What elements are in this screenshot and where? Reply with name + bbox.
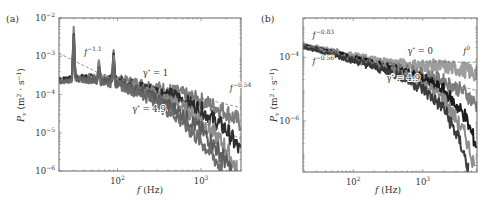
y-tick-label: 10−6 xyxy=(279,114,299,126)
x-tick-label: 103 xyxy=(415,175,430,187)
x-tick-label: 103 xyxy=(194,174,209,186)
fit-line xyxy=(59,53,99,73)
y-tick-label: 10−4 xyxy=(279,50,299,62)
annotation-label: f0 xyxy=(462,44,470,56)
annotation-label: γ* = 1 xyxy=(143,68,169,78)
panel-a-ylabel: Pv (m2 · s−1) xyxy=(15,68,27,123)
panel-b-ylabel: Pv (m2 · s−1) xyxy=(268,68,280,123)
y-tick-label: 10−6 xyxy=(35,164,55,176)
x-tick-label: 102 xyxy=(110,174,125,186)
panel-a-xlabel: f (Hz) xyxy=(136,185,163,195)
x-tick-label: 102 xyxy=(346,175,361,187)
annotation-label: f−0.54 xyxy=(229,81,252,93)
annotation-label: f−1.1 xyxy=(83,45,102,57)
figure: (a) 10−210−310−410−510−6 102103 f−1.1γ* … xyxy=(0,0,495,208)
panel-b: (b) 10−410−6 102103 f−0.83f−0.56γ* = 0f0… xyxy=(261,13,477,195)
annotation-label: f−0.56 xyxy=(311,54,334,66)
panel-a-label: (a) xyxy=(6,13,19,24)
y-tick-label: 10−2 xyxy=(35,11,55,23)
svg-text:Pv (m2 · s−1): Pv (m2 · s−1) xyxy=(15,68,27,123)
panel-b-xlabel: f (Hz) xyxy=(374,185,401,195)
y-tick-label: 10−5 xyxy=(35,126,55,138)
annotation-label: f−0.83 xyxy=(311,28,334,40)
panel-a: (a) 10−210−310−410−510−6 102103 f−1.1γ* … xyxy=(6,11,251,195)
y-tick-label: 10−4 xyxy=(35,88,55,100)
annotation-label: γ* = 4.9 xyxy=(386,73,420,83)
panel-b-plot-area xyxy=(303,43,477,174)
svg-text:Pv (m2 · s−1): Pv (m2 · s−1) xyxy=(268,68,280,123)
y-tick-label: 10−3 xyxy=(35,49,55,61)
annotation-label: γ* = 4.9 xyxy=(132,104,166,114)
annotation-label: γ* = 0 xyxy=(407,46,433,56)
panel-b-label: (b) xyxy=(261,13,275,24)
